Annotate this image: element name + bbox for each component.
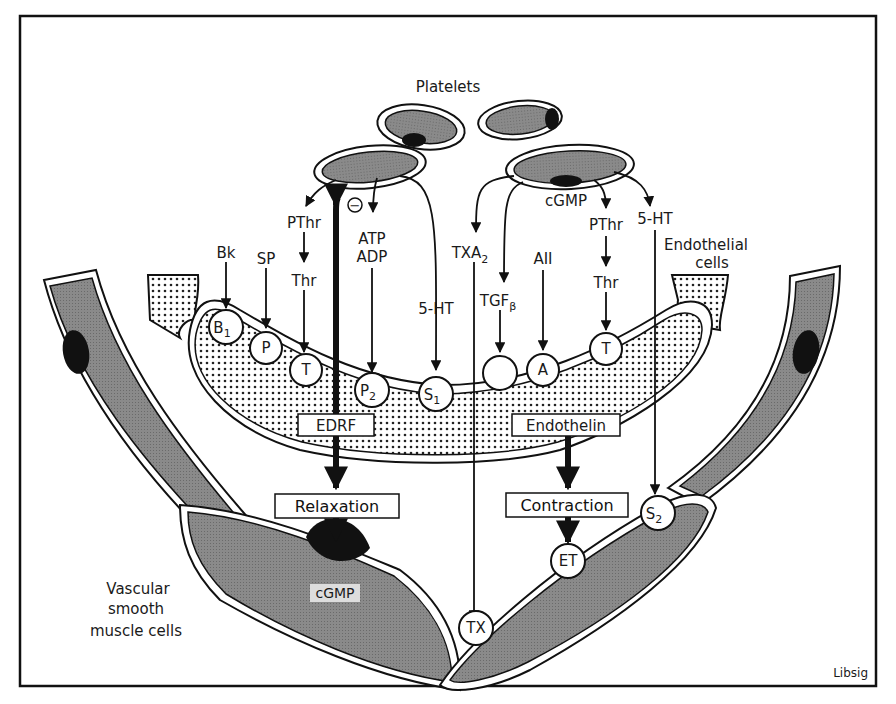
receptor-tgf bbox=[483, 356, 517, 390]
label-tx: TX bbox=[465, 619, 485, 637]
svg-text:smooth: smooth bbox=[108, 600, 164, 618]
label-pthr-left: PThr bbox=[287, 214, 322, 232]
label-5ht-left: 5-HT bbox=[418, 300, 454, 318]
svg-text:Endothelial: Endothelial bbox=[664, 236, 748, 254]
svg-text:−: − bbox=[350, 198, 361, 213]
cgmp-smooth-label: cGMP bbox=[310, 584, 360, 602]
box-relaxation: Relaxation bbox=[275, 494, 399, 518]
label-thr-left: Thr bbox=[291, 272, 318, 290]
svg-text:Contraction: Contraction bbox=[520, 496, 613, 515]
svg-text:muscle cells: muscle cells bbox=[90, 622, 182, 640]
svg-text:EDRF: EDRF bbox=[316, 417, 356, 435]
box-edrf: EDRF bbox=[298, 414, 374, 436]
label-t-right: T bbox=[600, 340, 611, 358]
label-aii: AII bbox=[533, 250, 552, 268]
box-endothelin: Endothelin bbox=[512, 414, 620, 436]
label-atp: ATP bbox=[358, 230, 385, 248]
label-t-left: T bbox=[300, 361, 311, 379]
label-thr-right: Thr bbox=[593, 274, 620, 292]
diagram-canvas: − B1 P T P2 S1 A T S2 ET TX Bk SP PThr T… bbox=[0, 0, 896, 704]
label-a: A bbox=[538, 361, 549, 379]
label-bk: Bk bbox=[217, 244, 236, 262]
box-contraction: Contraction bbox=[506, 493, 628, 517]
label-sp: SP bbox=[257, 250, 276, 268]
svg-text:Relaxation: Relaxation bbox=[295, 497, 379, 516]
inhibition-symbol: − bbox=[348, 198, 362, 213]
svg-text:Vascular: Vascular bbox=[106, 580, 170, 598]
credit-label: Libsig bbox=[833, 666, 868, 680]
svg-text:cGMP: cGMP bbox=[315, 585, 354, 601]
svg-text:cells: cells bbox=[695, 254, 729, 272]
label-pthr-right: PThr bbox=[589, 216, 624, 234]
label-5ht-right: 5-HT bbox=[637, 210, 673, 228]
label-adp: ADP bbox=[357, 248, 388, 266]
label-platelets: Platelets bbox=[416, 78, 481, 96]
label-p: P bbox=[261, 339, 270, 357]
label-et: ET bbox=[559, 552, 578, 570]
label-cgmp-platelet: cGMP bbox=[545, 192, 587, 210]
svg-text:Endothelin: Endothelin bbox=[526, 417, 606, 435]
